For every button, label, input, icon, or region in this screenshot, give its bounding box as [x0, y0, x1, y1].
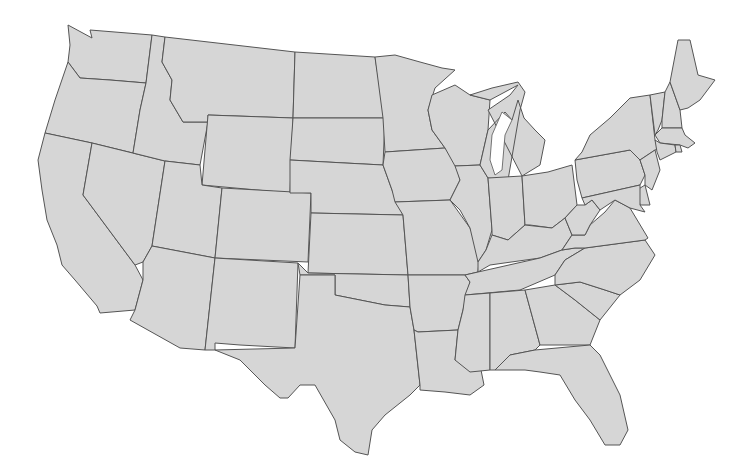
state-me	[670, 40, 715, 110]
state-ks	[308, 213, 408, 275]
state-nd	[293, 52, 385, 118]
state-nm	[205, 258, 298, 350]
state-sd	[290, 118, 385, 165]
states-layer	[38, 25, 715, 455]
us-states-map	[0, 0, 745, 474]
state-mt	[162, 37, 295, 122]
state-ny	[575, 95, 660, 160]
state-ia	[383, 148, 460, 202]
state-wy	[202, 115, 293, 193]
state-ri	[675, 145, 682, 152]
state-wa	[68, 25, 152, 83]
map-canvas	[0, 0, 745, 474]
state-co	[215, 188, 311, 262]
state-fl	[495, 345, 628, 445]
state-az	[130, 246, 215, 350]
